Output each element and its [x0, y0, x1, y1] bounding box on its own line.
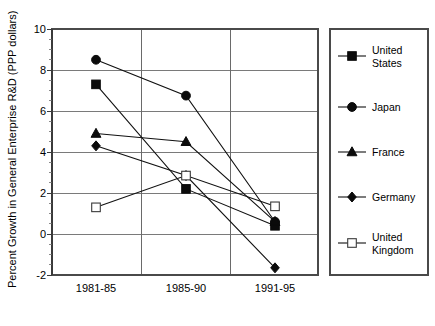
legend-label-1-line1: Japan	[372, 101, 401, 113]
y-tick-label-4: 4	[40, 146, 46, 158]
data-point-france-1981-85[interactable]	[91, 128, 101, 137]
x-tick-label-1985-90: 1985-90	[166, 282, 206, 294]
legend-label-3-line1: Germany	[372, 191, 416, 203]
legend-marker-germany[interactable]	[348, 192, 357, 202]
legend-entries-group: UnitedStatesJapanFranceGermanyUnitedKing…	[338, 44, 416, 256]
data-point-united-states-1985-90[interactable]	[182, 185, 191, 194]
y-tick-label-0: 0	[40, 228, 46, 240]
y-tick-label-minus2: -2	[36, 269, 46, 281]
legend-label-0-line2: States	[372, 57, 402, 69]
line-chart-figure: Percent Growth in General Enterprise R&D…	[0, 0, 435, 326]
series-markers-group	[91, 55, 280, 272]
y-tick-label-2: 2	[40, 187, 46, 199]
legend-label-2-line1: France	[372, 146, 405, 158]
data-point-japan-1985-90[interactable]	[182, 91, 191, 100]
chart-canvas: Percent Growth in General Enterprise R&D…	[0, 0, 435, 326]
x-tick-label-1991-95: 1991-95	[255, 282, 295, 294]
legend-marker-japan[interactable]	[348, 103, 357, 112]
y-tick-label-6: 6	[40, 105, 46, 117]
legend-label-4-line1: United	[372, 231, 403, 243]
data-point-united-kingdom-1985-90[interactable]	[182, 171, 191, 180]
chart-page: Percent Growth in General Enterprise R&D…	[0, 0, 435, 326]
data-point-united-states-1981-85[interactable]	[92, 80, 101, 89]
legend-marker-united-kingdom[interactable]	[348, 239, 357, 248]
legend-marker-united-states[interactable]	[348, 52, 357, 61]
y-tick-label-8: 8	[40, 64, 46, 76]
legend-label-4-line2: Kingdom	[372, 244, 414, 256]
data-point-germany-1981-85[interactable]	[92, 141, 101, 151]
legend-marker-france[interactable]	[347, 147, 357, 156]
y-axis-title: Percent Growth in General Enterprise R&D…	[6, 11, 18, 288]
legend-label-0-line1: United	[372, 44, 403, 56]
x-tick-label-1981-85: 1981-85	[76, 282, 116, 294]
data-point-united-kingdom-1991-95[interactable]	[271, 202, 280, 211]
data-point-japan-1981-85[interactable]	[92, 55, 101, 64]
y-tick-label-10: 10	[34, 23, 46, 35]
series-line-germany	[96, 146, 275, 268]
data-point-united-kingdom-1981-85[interactable]	[92, 203, 101, 212]
